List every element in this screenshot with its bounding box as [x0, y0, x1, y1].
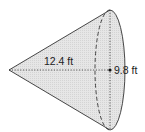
center-point: [108, 68, 111, 71]
height-label: 12.4 ft: [44, 55, 73, 67]
cone-diagram: 12.4 ft 9.8 ft: [0, 0, 145, 132]
radius-label: 9.8 ft: [114, 64, 137, 76]
